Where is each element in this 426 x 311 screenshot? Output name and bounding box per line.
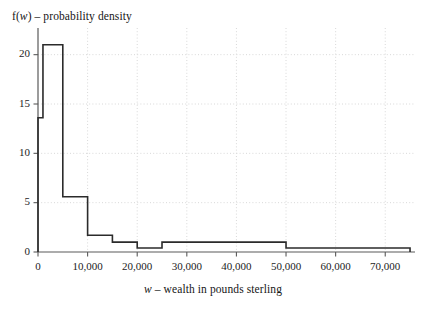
grid-lines <box>38 28 415 252</box>
histogram-step-outline <box>38 45 410 252</box>
x-tick-label: 70,000 <box>355 260 415 272</box>
axis-lines <box>38 28 415 252</box>
y-tick-label: 20 <box>4 47 30 59</box>
y-tick-label: 5 <box>4 195 30 207</box>
y-tick-label: 15 <box>4 97 30 109</box>
histogram-chart: f(w) – probability density w – wealth in… <box>0 0 426 311</box>
y-tick-label: 0 <box>4 245 30 257</box>
tick-marks <box>34 55 386 257</box>
y-tick-label: 10 <box>4 146 30 158</box>
